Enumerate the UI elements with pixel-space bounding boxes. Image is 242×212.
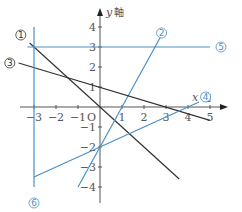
line-label-1: 1 <box>18 30 24 40</box>
x-axis-arrow-icon <box>220 104 228 110</box>
line-label-5: 5 <box>218 42 224 52</box>
line-label-3: 3 <box>7 58 13 68</box>
y-tick-label: −4 <box>80 181 96 194</box>
y-axis-title-kanji: 軸 <box>114 6 124 18</box>
x-tick-label: 1 <box>119 111 126 124</box>
line-label-2: 2 <box>159 28 165 38</box>
line-label-4: 4 <box>203 92 209 102</box>
origin-label: O <box>87 111 96 124</box>
x-tick-label: 5 <box>207 111 214 124</box>
line-label-6: 6 <box>31 198 37 208</box>
y-axis-arrow-icon <box>97 8 103 16</box>
chart-container: −3−2−1123454321−1−2−3−4Ox軸y軸 123456 <box>0 0 242 212</box>
y-tick-label: 1 <box>89 81 96 94</box>
x-tick-label: −2 <box>48 111 64 124</box>
coordinate-plane: −3−2−1123454321−1−2−3−4Ox軸y軸 123456 <box>0 0 242 212</box>
y-tick-label: −3 <box>80 161 96 174</box>
y-tick-label: 2 <box>89 61 96 74</box>
y-tick-label: 4 <box>89 21 96 34</box>
y-axis-title-var: y <box>105 6 113 19</box>
x-tick-label: 2 <box>141 111 148 124</box>
